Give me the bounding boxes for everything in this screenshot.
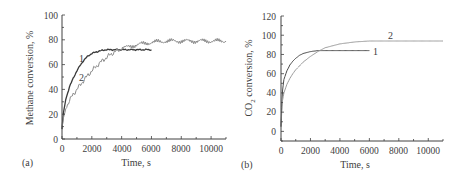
chart-b-plot-area	[281, 41, 443, 127]
chart-b-ticks	[281, 16, 443, 141]
chart-a-ytick: 100	[44, 11, 59, 21]
chart-b-xtick: 0	[279, 146, 284, 156]
chart-a-xtick: 2000	[83, 144, 102, 154]
chart-a-ytick: 0	[53, 135, 58, 145]
series-line-1	[62, 49, 152, 129]
chart-a-xtick: 0	[60, 144, 65, 154]
chart-a-panel-label: (a)	[22, 157, 33, 169]
chart-b-xtick: 8000	[389, 146, 408, 156]
chart-b-xtick: 6000	[360, 146, 379, 156]
chart-b: 0 20 40 60 80 100 120 0 2000 4000 6000 8…	[241, 12, 443, 172]
chart-a: 0 20 40 60 80 100 0 2000 4000 6000 8000 …	[22, 11, 226, 170]
chart-a-x-title: Time, s	[121, 157, 151, 168]
chart-b-ytick: 80	[267, 50, 277, 60]
chart-b-x-title: Time, s	[340, 159, 370, 170]
chart-b-y-title: CO2 conversion, %	[243, 39, 257, 116]
series-line-2	[281, 41, 443, 127]
chart-a-xtick: 6000	[142, 144, 161, 154]
chart-b-xtick: 4000	[330, 146, 349, 156]
chart-b-ytick: 20	[267, 107, 277, 117]
chart-a-xtick: 10000	[199, 144, 223, 154]
chart-a-curve-label-1: 1	[79, 53, 84, 64]
chart-a-ytick: 40	[49, 85, 59, 95]
chart-b-ytick: 0	[271, 127, 276, 137]
chart-a-ytick: 60	[49, 60, 59, 70]
figure: 0 20 40 60 80 100 0 2000 4000 6000 8000 …	[0, 0, 464, 182]
chart-b-curve-label-1: 1	[373, 46, 378, 57]
chart-b-xtick: 10000	[416, 146, 440, 156]
chart-b-xtick: 2000	[301, 146, 320, 156]
chart-b-ytick: 60	[267, 69, 277, 79]
chart-a-y-title: Methane conversion, %	[24, 31, 35, 126]
chart-b-ytick: 120	[262, 12, 277, 22]
chart-b-panel-label: (b)	[241, 159, 253, 171]
chart-a-curve-label-2: 2	[79, 72, 84, 83]
series-line-2	[62, 38, 226, 128]
chart-a-ytick: 20	[49, 110, 59, 120]
chart-a-xtick: 4000	[113, 144, 132, 154]
chart-a-plot-area	[62, 38, 226, 129]
series-line-1	[281, 51, 369, 127]
chart-b-curve-label-2: 2	[388, 30, 393, 41]
chart-a-xtick: 8000	[172, 144, 191, 154]
chart-b-ytick: 100	[262, 31, 277, 41]
chart-a-ytick: 80	[49, 35, 59, 45]
chart-b-ytick: 40	[267, 88, 277, 98]
